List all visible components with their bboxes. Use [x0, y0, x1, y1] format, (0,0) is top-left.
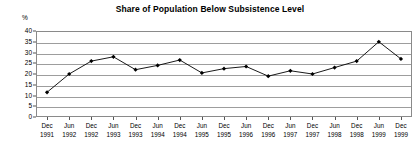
x-tick-mark-1 [69, 117, 70, 120]
x-tick-month: Jun [195, 122, 209, 131]
x-tick-month: Jun [239, 122, 253, 131]
y-tick-label-0: 0 [28, 114, 32, 121]
x-tick-label-16: Dec1999 [394, 122, 408, 139]
x-tick-label-7: Jun1995 [195, 122, 209, 139]
data-point-marker-4 [133, 68, 137, 72]
x-tick-label-4: Dec1993 [129, 122, 143, 139]
x-tick-mark-5 [158, 117, 159, 120]
x-tick-year: 1993 [106, 131, 120, 140]
x-tick-year: 1996 [261, 131, 275, 140]
data-point-marker-7 [200, 71, 204, 75]
x-tick-mark-13 [335, 117, 336, 120]
x-tick-year: 1999 [394, 131, 408, 140]
x-tick-label-6: Dec1994 [173, 122, 187, 139]
x-tick-label-5: Jun1994 [151, 122, 165, 139]
x-tick-month: Jun [283, 122, 297, 131]
data-point-marker-13 [332, 65, 336, 69]
x-tick-label-8: Dec1995 [217, 122, 231, 139]
x-tick-label-10: Dec1996 [261, 122, 275, 139]
x-tick-month: Dec [350, 122, 364, 131]
x-tick-month: Jun [372, 122, 386, 131]
x-tick-mark-8 [224, 117, 225, 120]
data-point-marker-9 [244, 64, 248, 68]
x-tick-month: Dec [305, 122, 319, 131]
x-tick-month: Dec [84, 122, 98, 131]
y-tick-label-15: 15 [25, 82, 32, 89]
x-tick-year: 1997 [283, 131, 297, 140]
data-point-marker-11 [288, 69, 292, 73]
x-tick-mark-9 [246, 117, 247, 120]
x-tick-mark-16 [401, 117, 402, 120]
x-tick-year: 1997 [305, 131, 319, 140]
x-tick-year: 1994 [173, 131, 187, 140]
y-tick-label-40: 40 [25, 28, 32, 35]
x-tick-month: Dec [129, 122, 143, 131]
x-tick-month: Dec [394, 122, 408, 131]
x-tick-mark-11 [290, 117, 291, 120]
x-tick-mark-10 [268, 117, 269, 120]
x-tick-year: 1998 [328, 131, 342, 140]
x-tick-mark-2 [91, 117, 92, 120]
x-tick-month: Jun [62, 122, 76, 131]
y-tick-label-20: 20 [25, 71, 32, 78]
x-tick-mark-15 [379, 117, 380, 120]
x-tick-month: Jun [328, 122, 342, 131]
y-tick-label-25: 25 [25, 60, 32, 67]
x-tick-month: Jun [151, 122, 165, 131]
y-tick-label-30: 30 [25, 49, 32, 56]
y-tick-label-5: 5 [28, 103, 32, 110]
data-point-marker-2 [89, 59, 93, 63]
x-tick-month: Dec [40, 122, 54, 131]
x-tick-mark-3 [113, 117, 114, 120]
y-tick-label-10: 10 [25, 92, 32, 99]
x-tick-year: 1992 [62, 131, 76, 140]
x-axis-tick-marks [36, 117, 412, 121]
chart-title: Share of Population Below Subsistence Le… [0, 4, 420, 14]
data-point-marker-10 [266, 74, 270, 78]
x-tick-year: 1994 [151, 131, 165, 140]
x-tick-year: 1999 [372, 131, 386, 140]
x-tick-label-13: Jun1998 [328, 122, 342, 139]
x-tick-label-11: Jun1997 [283, 122, 297, 139]
x-tick-month: Jun [106, 122, 120, 131]
y-axis-tick-labels: 4035302520151050 [0, 31, 36, 117]
x-tick-mark-7 [202, 117, 203, 120]
x-tick-month: Dec [217, 122, 231, 131]
x-tick-label-15: Jun1999 [372, 122, 386, 139]
x-tick-year: 1991 [40, 131, 54, 140]
x-tick-label-1: Jun1992 [62, 122, 76, 139]
data-point-marker-3 [111, 55, 115, 59]
x-tick-year: 1995 [195, 131, 209, 140]
x-tick-label-0: Dec1991 [40, 122, 54, 139]
data-series-line [36, 31, 412, 117]
x-tick-label-3: Jun1993 [106, 122, 120, 139]
x-tick-month: Dec [261, 122, 275, 131]
x-tick-label-9: Jun1996 [239, 122, 253, 139]
data-point-marker-8 [222, 67, 226, 71]
x-tick-label-14: Dec1998 [350, 122, 364, 139]
y-tick-label-35: 35 [25, 39, 32, 46]
x-tick-mark-4 [136, 117, 137, 120]
data-point-marker-5 [156, 63, 160, 67]
data-point-marker-12 [310, 72, 314, 76]
x-tick-year: 1998 [350, 131, 364, 140]
x-tick-year: 1995 [217, 131, 231, 140]
x-tick-mark-12 [312, 117, 313, 120]
x-axis-tick-labels: Dec1991Jun1992Dec1992Jun1993Dec1993Jun19… [0, 122, 420, 150]
x-tick-mark-0 [47, 117, 48, 120]
x-tick-month: Dec [173, 122, 187, 131]
chart-container: Share of Population Below Subsistence Le… [0, 0, 420, 151]
data-point-marker-6 [178, 58, 182, 62]
x-tick-mark-14 [357, 117, 358, 120]
x-tick-year: 1993 [129, 131, 143, 140]
y-axis-unit-label: % [22, 14, 28, 21]
x-tick-year: 1992 [84, 131, 98, 140]
x-tick-label-12: Dec1997 [305, 122, 319, 139]
x-tick-year: 1996 [239, 131, 253, 140]
x-tick-mark-6 [180, 117, 181, 120]
x-tick-label-2: Dec1992 [84, 122, 98, 139]
